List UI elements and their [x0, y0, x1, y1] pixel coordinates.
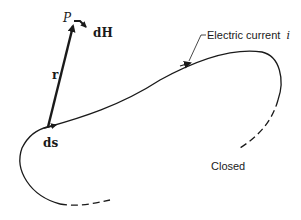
- current-label-text: Electric current: [207, 29, 280, 41]
- current-label-leader: [189, 35, 206, 61]
- dh-vector: [74, 21, 86, 27]
- current-loop-dashed-bottom: [60, 200, 110, 205]
- biot-savart-diagram: P dH r ds Electric current i Closed: [0, 0, 301, 220]
- ds-arrow-icon: [44, 125, 56, 128]
- current-loop-solid: [20, 51, 281, 204]
- ds-label: ds: [43, 136, 58, 150]
- current-symbol: i: [286, 29, 290, 42]
- point-label: P: [62, 11, 72, 25]
- closed-label: Closed: [211, 160, 245, 172]
- r-label: r: [52, 68, 59, 82]
- current-label: Electric current i: [207, 29, 290, 42]
- current-loop-dashed-right: [240, 100, 278, 148]
- dh-label: dH: [93, 26, 113, 40]
